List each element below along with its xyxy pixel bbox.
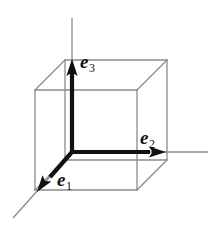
vector-label-e1: e1 xyxy=(57,170,72,192)
vector-basis-diagram xyxy=(0,0,219,233)
vector-label-e3-subscript: 3 xyxy=(88,61,95,75)
vector-label-e2-subscript: 2 xyxy=(148,137,155,151)
cube-edge-depth-bottom-right xyxy=(137,160,167,190)
vector-label-e1-subscript: 1 xyxy=(65,179,72,193)
vector-e3 xyxy=(66,59,77,152)
cube-edge-depth-top-left xyxy=(35,60,65,90)
cube-edge-depth-top-right xyxy=(137,60,167,90)
vector-label-e3: e3 xyxy=(80,52,95,74)
vector-label-e2: e2 xyxy=(140,128,155,150)
figure-canvas: e1 e2 e3 xyxy=(0,0,219,233)
